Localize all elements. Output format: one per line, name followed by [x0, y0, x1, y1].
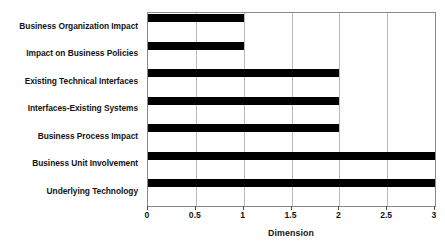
bar [148, 97, 339, 105]
category-label: Impact on Business Policies [26, 49, 138, 57]
bar-chart: Business Organization Impact Impact on B… [0, 0, 445, 247]
bar-row [148, 41, 435, 69]
x-tick-label: 2 [336, 210, 341, 220]
category-label: Business Unit Involvement [32, 159, 138, 167]
category-band: Business Unit Involvement [0, 150, 143, 178]
bar [148, 124, 339, 132]
category-band: Existing Technical Interfaces [0, 67, 143, 95]
bar-row [148, 96, 435, 124]
bar-row [148, 178, 435, 206]
bar [148, 152, 435, 160]
category-band: Business Process Impact [0, 122, 143, 150]
bar-row [148, 151, 435, 179]
category-label: Underlying Technology [47, 187, 138, 195]
category-label: Interfaces-Existing Systems [28, 104, 138, 112]
bar-row [148, 123, 435, 151]
x-tick-label: 1.5 [285, 210, 297, 220]
x-tick-label: 1 [240, 210, 245, 220]
category-band: Interfaces-Existing Systems [0, 95, 143, 123]
x-axis-tick-labels: 00.511.522.53 [147, 210, 435, 223]
x-tick-label: 2.5 [380, 210, 392, 220]
category-label: Business Process Impact [38, 132, 138, 140]
x-tick-label: 0.5 [189, 210, 201, 220]
category-band: Business Organization Impact [0, 12, 143, 40]
category-axis: Business Organization Impact Impact on B… [0, 12, 143, 205]
bar-row [148, 68, 435, 96]
category-label: Existing Technical Interfaces [25, 77, 138, 85]
category-band: Underlying Technology [0, 177, 143, 205]
x-tick-label: 0 [145, 210, 150, 220]
bar [148, 69, 339, 77]
x-axis-title: Dimension [147, 228, 435, 238]
bars-layer [148, 13, 435, 206]
bar [148, 14, 244, 22]
category-label: Business Organization Impact [19, 22, 138, 30]
plot-area [147, 12, 436, 207]
x-tick-label: 3 [432, 210, 437, 220]
bar [148, 179, 435, 187]
bar [148, 42, 244, 50]
category-band: Impact on Business Policies [0, 40, 143, 68]
bar-row [148, 13, 435, 41]
